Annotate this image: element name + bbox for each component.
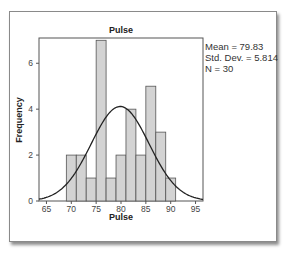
histogram-bar (146, 86, 156, 201)
x-tick-label: 95 (191, 204, 201, 214)
chart-title: Pulse (109, 25, 133, 35)
histogram-bar (86, 178, 96, 201)
x-axis-label: Pulse (109, 212, 133, 222)
y-tick-label: 2 (28, 150, 33, 160)
n-label: N = 30 (205, 63, 278, 74)
histogram-bar (106, 178, 116, 201)
y-axis-label: Frequency (14, 97, 24, 143)
histogram-bar (136, 155, 146, 201)
x-tick-label: 90 (166, 204, 176, 214)
y-axis-ticks: 0246 (28, 58, 39, 206)
histogram-bar (96, 40, 106, 201)
histogram-bar (126, 109, 136, 201)
x-tick-label: 65 (42, 204, 52, 214)
x-tick-label: 85 (141, 204, 151, 214)
stats-legend: Mean = 79.83 Std. Dev. = 5.814 N = 30 (205, 41, 278, 74)
y-tick-label: 0 (28, 196, 33, 206)
y-tick-label: 4 (28, 104, 33, 114)
histogram-bar (116, 155, 126, 201)
std-dev-label: Std. Dev. = 5.814 (205, 52, 278, 63)
x-tick-label: 70 (67, 204, 77, 214)
x-tick-label: 75 (91, 204, 101, 214)
y-tick-label: 6 (28, 58, 33, 68)
mean-label: Mean = 79.83 (205, 41, 278, 52)
histogram-chart: Pulse 65707580859095 0246 Pulse Frequenc… (0, 0, 284, 253)
